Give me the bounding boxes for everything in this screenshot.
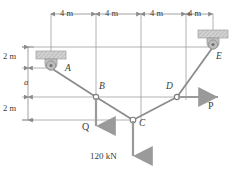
member-BC [96,97,133,120]
extension-lines [51,14,213,122]
node-label-D: D [166,82,173,92]
cable-members [51,47,213,120]
dimension-label-top-1: 4 m [60,9,73,18]
support-E [198,30,228,49]
load-label-P: P [208,101,214,111]
dimension-label-top-4: 4 m [188,9,201,18]
node-label-A: A [65,64,71,74]
dimension-label-left-2: 2 m [3,104,16,113]
dimension-label-left-a: a [24,78,28,87]
support-A [36,51,66,70]
member-CD [133,97,177,120]
load-arrows [96,97,218,156]
node-label-B: B [99,82,105,92]
diagram-canvas [0,0,234,169]
member-DE [177,47,213,97]
cable-truss-diagram: 4 m 4 m 4 m 4 m 2 m a 2 m A B C D E Q 12… [0,0,234,169]
member-AB [51,68,96,97]
node-label-C: C [139,119,145,129]
node-label-E: E [216,52,222,62]
load-label-120kN: 120 kN [90,152,117,161]
load-label-Q: Q [82,122,89,132]
dimension-label-left-1: 2 m [3,52,16,61]
dimension-label-top-3: 4 m [150,9,163,18]
dimension-label-top-2: 4 m [105,9,118,18]
